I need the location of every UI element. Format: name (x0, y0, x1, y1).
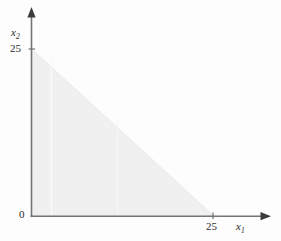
x-tick-label-25: 25 (206, 221, 217, 232)
plot-svg (0, 0, 281, 241)
x-axis-label-subscript: 1 (241, 226, 245, 235)
x-axis-label: x1 (236, 221, 245, 232)
y-axis-label: x2 (11, 27, 20, 38)
y-axis-arrowhead (27, 7, 35, 18)
figure-canvas: x2 25 0 25 x1 (0, 0, 281, 241)
x-axis-arrowhead (261, 212, 272, 220)
origin-label: 0 (19, 209, 25, 220)
y-tick-label-25: 25 (10, 43, 21, 54)
y-axis-label-subscript: 2 (16, 32, 20, 41)
